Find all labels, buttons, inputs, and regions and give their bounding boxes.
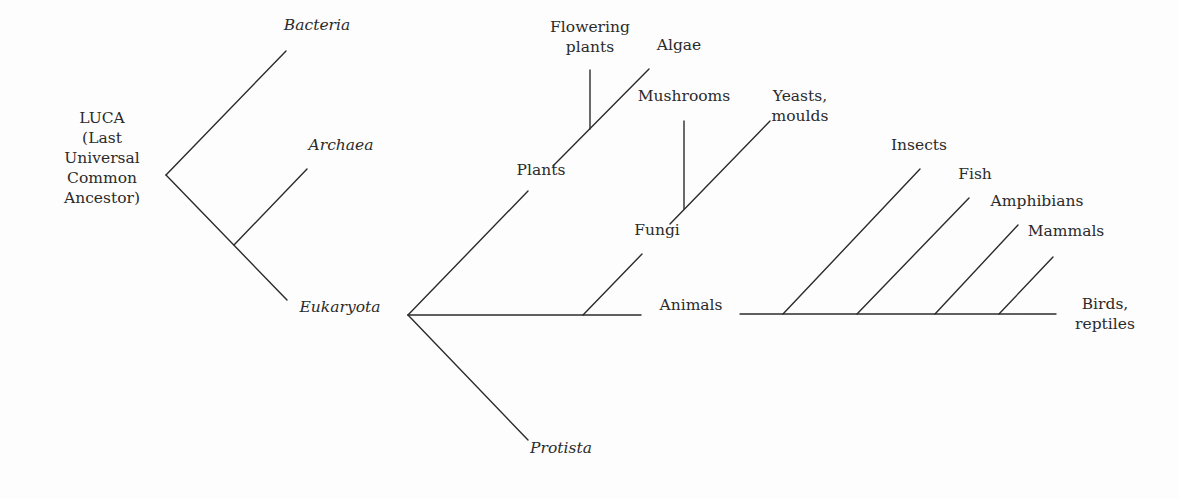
edge-fish-branch — [857, 198, 969, 314]
node-label-protista: Protista — [530, 438, 592, 458]
edge-fungi-yeasts — [670, 121, 770, 224]
node-label-luca: LUCA (Last Universal Common Ancestor) — [64, 108, 140, 208]
node-label-bacteria: Bacteria — [284, 15, 350, 35]
node-label-insects: Insects — [891, 135, 947, 155]
edge-mammals-branch — [999, 257, 1053, 314]
edge-archaea-branch — [234, 169, 307, 245]
edge-insects-branch — [783, 169, 920, 314]
node-label-mushrooms: Mushrooms — [638, 86, 731, 106]
node-label-yeasts-moulds: Yeasts, moulds — [772, 86, 829, 126]
node-label-algae: Algae — [657, 35, 702, 55]
node-label-animals: Animals — [660, 295, 723, 315]
edge-luca-eukaryota — [166, 175, 287, 300]
edge-fungi-branch — [583, 254, 642, 315]
node-label-eukaryota: Eukaryota — [300, 297, 381, 317]
edge-amphibians-branch — [935, 225, 1018, 314]
edge-euk-plants — [408, 191, 528, 315]
edge-plants-algae — [553, 69, 649, 166]
node-label-birds-reptiles: Birds, reptiles — [1075, 294, 1135, 334]
node-label-archaea: Archaea — [309, 135, 374, 155]
edge-luca-bacteria — [166, 51, 286, 175]
phylogenetic-tree-diagram: LUCA (Last Universal Common Ancestor)Bac… — [0, 0, 1179, 499]
node-label-plants: Plants — [517, 160, 566, 180]
tree-edges — [0, 0, 1179, 499]
node-label-fungi: Fungi — [634, 220, 680, 240]
node-label-fish: Fish — [958, 164, 992, 184]
node-label-amphibians: Amphibians — [991, 191, 1084, 211]
edge-euk-protista — [408, 315, 528, 440]
node-label-flowering-plants: Flowering plants — [550, 17, 630, 57]
node-label-mammals: Mammals — [1028, 221, 1105, 241]
